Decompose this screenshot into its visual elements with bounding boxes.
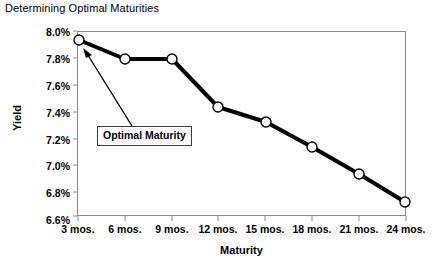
data-point-marker[interactable] (213, 102, 223, 112)
data-point-marker[interactable] (167, 54, 177, 64)
data-point-marker[interactable] (400, 197, 410, 207)
y-axis-ticks (73, 31, 77, 216)
yield-series-markers (74, 35, 410, 207)
data-point-marker[interactable] (307, 142, 317, 152)
data-point-marker[interactable] (74, 35, 84, 45)
chart-figure: Determining Optimal Maturities 8.0% 7.8%… (0, 0, 436, 265)
chart-plot-svg (0, 0, 436, 265)
data-point-marker[interactable] (354, 169, 364, 179)
x-axis-ticks (78, 216, 406, 221)
annotation-optimal-maturity: Optimal Maturity (97, 126, 192, 146)
arrowhead-icon (83, 48, 92, 58)
data-point-marker[interactable] (120, 54, 130, 64)
data-point-marker[interactable] (261, 117, 271, 127)
